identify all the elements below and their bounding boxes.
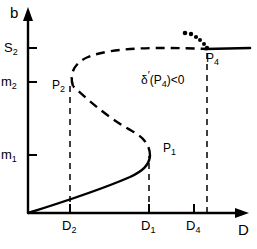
trajectory-dot — [194, 35, 198, 39]
y-tick-m1-sub: 1 — [12, 154, 17, 164]
x-tick-D2: D2 — [62, 219, 76, 232]
y-tick-S2-text: S — [4, 40, 13, 55]
x-axis-label: D — [238, 222, 249, 237]
y-axis — [23, 7, 33, 213]
point-label-P1: P1 — [163, 142, 176, 154]
curve-unstable-middle-branch — [73, 86, 150, 156]
bifurcation-diagram-figure: b D S2 m2 m1 D2 D1 D4 P2 P1 P4 δ′(P4)<0 — [0, 0, 257, 249]
y-tick-m2-text: m — [1, 74, 12, 89]
point-label-P1-sub: 1 — [171, 147, 176, 157]
trajectory-dot — [183, 31, 188, 36]
point-label-P2-text: P — [52, 78, 60, 92]
trajectory-dot — [198, 38, 202, 42]
point-label-P1-text: P — [163, 141, 171, 155]
y-axis-label: b — [10, 5, 18, 20]
point-label-P4-sub: 4 — [214, 57, 219, 67]
trajectory-dot — [189, 32, 193, 36]
x-tick-D2-text: D — [62, 218, 71, 233]
point-label-P2-sub: 2 — [60, 84, 65, 94]
annotation-tail: )<0 — [167, 73, 185, 87]
y-axis-ticks — [28, 48, 37, 155]
annotation-sub: 4 — [162, 79, 167, 89]
trajectory-dot — [205, 46, 209, 50]
point-label-P2: P2 — [52, 79, 65, 91]
x-tick-D4-text: D — [186, 218, 195, 233]
x-axis-ticks — [70, 204, 194, 213]
y-tick-S2: S2 — [4, 41, 18, 54]
point-label-P4-text: P — [206, 51, 214, 65]
curve-stable-upper-line — [205, 48, 250, 49]
curve-stable-lower-branch — [28, 156, 150, 213]
x-tick-D1-sub: 1 — [150, 225, 155, 235]
y-tick-m2-sub: 2 — [12, 81, 17, 91]
y-tick-S2-sub: 2 — [13, 47, 18, 57]
trajectory-dot — [202, 42, 206, 46]
x-axis — [28, 208, 249, 218]
droplines — [70, 50, 207, 213]
annotation-derivative-condition: δ′(P4)<0 — [141, 70, 184, 86]
y-tick-m1-text: m — [1, 147, 12, 162]
x-tick-D1-text: D — [141, 218, 150, 233]
x-tick-D4: D4 — [186, 219, 200, 232]
plot-canvas — [0, 0, 257, 249]
y-tick-m1: m1 — [1, 148, 17, 161]
x-tick-D4-sub: 4 — [195, 225, 200, 235]
annotation-delta-symbol: δ — [141, 73, 148, 87]
annotation-open-paren: (P — [150, 73, 162, 87]
x-tick-D2-sub: 2 — [71, 225, 76, 235]
x-tick-D1: D1 — [141, 219, 155, 232]
curve-unstable-upper-branch — [72, 48, 207, 86]
y-tick-m2: m2 — [1, 75, 17, 88]
point-label-P4: P4 — [206, 52, 219, 64]
